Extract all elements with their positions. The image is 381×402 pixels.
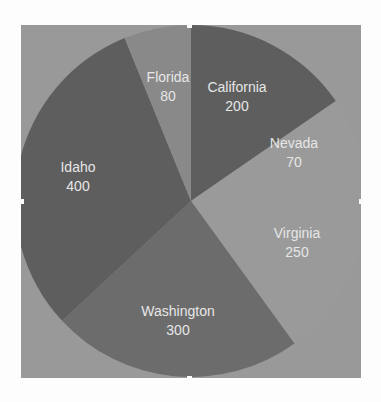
slice-value: 80 <box>147 87 190 106</box>
slice-value: 300 <box>141 321 214 340</box>
slice-label-virginia: Virginia 250 <box>274 224 320 262</box>
slice-name: California <box>207 78 266 97</box>
slice-name: Washington <box>141 302 214 321</box>
resize-handle-right[interactable] <box>359 199 364 204</box>
slice-value: 70 <box>270 153 318 172</box>
slice-label-idaho: Idaho 400 <box>60 158 95 196</box>
slice-name: Virginia <box>274 224 320 243</box>
slice-name: Florida <box>147 68 190 87</box>
slice-name: Nevada <box>270 134 318 153</box>
resize-handle-left[interactable] <box>19 199 24 204</box>
slice-name: Idaho <box>60 158 95 177</box>
slice-value: 200 <box>207 97 266 116</box>
slice-label-florida: Florida 80 <box>147 68 190 106</box>
slice-label-washington: Washington 300 <box>141 302 214 340</box>
resize-handle-top[interactable] <box>187 23 192 28</box>
slice-value: 250 <box>274 243 320 262</box>
resize-handle-bottom[interactable] <box>187 376 192 381</box>
slice-label-california: California 200 <box>207 78 266 116</box>
slice-label-nevada: Nevada 70 <box>270 134 318 172</box>
pie-chart-frame[interactable]: California 200 Nevada 70 Virginia 250 Wa… <box>21 25 361 378</box>
slice-value: 400 <box>60 177 95 196</box>
